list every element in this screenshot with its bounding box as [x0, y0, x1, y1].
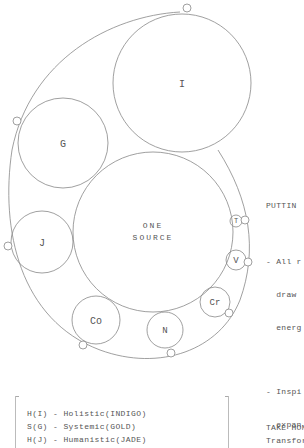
legend-row-holistic: H(I) - Holistic(INDIGO)	[27, 409, 147, 418]
bullet-1-line-2: draw	[266, 289, 302, 300]
side-heading: PUTTIN	[266, 200, 302, 211]
circle-co: Co	[72, 296, 120, 344]
circle-label: SOURCE	[133, 233, 174, 242]
take-home-text: Transfor	[266, 436, 304, 445]
circle-label: G	[60, 139, 66, 150]
legend-box: H(I) - Holistic(INDIGO) S(G) - Systemic(…	[15, 396, 229, 448]
circle-label: ONE	[143, 221, 163, 230]
circle-label: J	[39, 238, 45, 249]
tangent-marker	[167, 349, 175, 357]
circle-j: J	[11, 211, 73, 273]
tangent-marker	[183, 4, 191, 12]
legend-bracket-left	[15, 396, 16, 448]
circle-t: T	[230, 215, 242, 227]
tangent-marker	[13, 117, 21, 125]
side-notes: PUTTIN - All r draw energ - Inspi expan …	[266, 178, 302, 448]
tangent-marker	[244, 258, 252, 266]
one-source-diagram: IGONESOURCEJTVCrCoN	[0, 0, 304, 448]
circle-label: T	[234, 217, 238, 225]
tangent-marker	[241, 216, 249, 224]
bullet-1-line-1: - All r	[266, 256, 302, 267]
circle-label: N	[162, 326, 167, 336]
circle-label: V	[233, 256, 239, 266]
circle-label: Cr	[210, 298, 221, 308]
tangent-marker	[225, 309, 233, 317]
legend-row-humanistic: H(J) - Humanistic(JADE)	[27, 435, 147, 444]
bullet-1-line-3: energ	[266, 322, 302, 333]
circle-label: Co	[90, 316, 102, 327]
circle-i: I	[113, 14, 251, 152]
bullet-2-line-1: - Inspi	[266, 386, 302, 397]
tangent-marker	[4, 242, 12, 250]
legend-bracket-right	[228, 396, 229, 448]
circle-n: N	[147, 312, 183, 348]
take-home-heading: TAKE HOM	[266, 423, 304, 432]
circle-v: V	[226, 250, 246, 270]
circle-label: I	[179, 79, 185, 90]
circle-g: G	[18, 98, 108, 188]
tangent-marker	[79, 341, 87, 349]
legend-row-systemic: S(G) - Systemic(GOLD)	[27, 422, 136, 431]
